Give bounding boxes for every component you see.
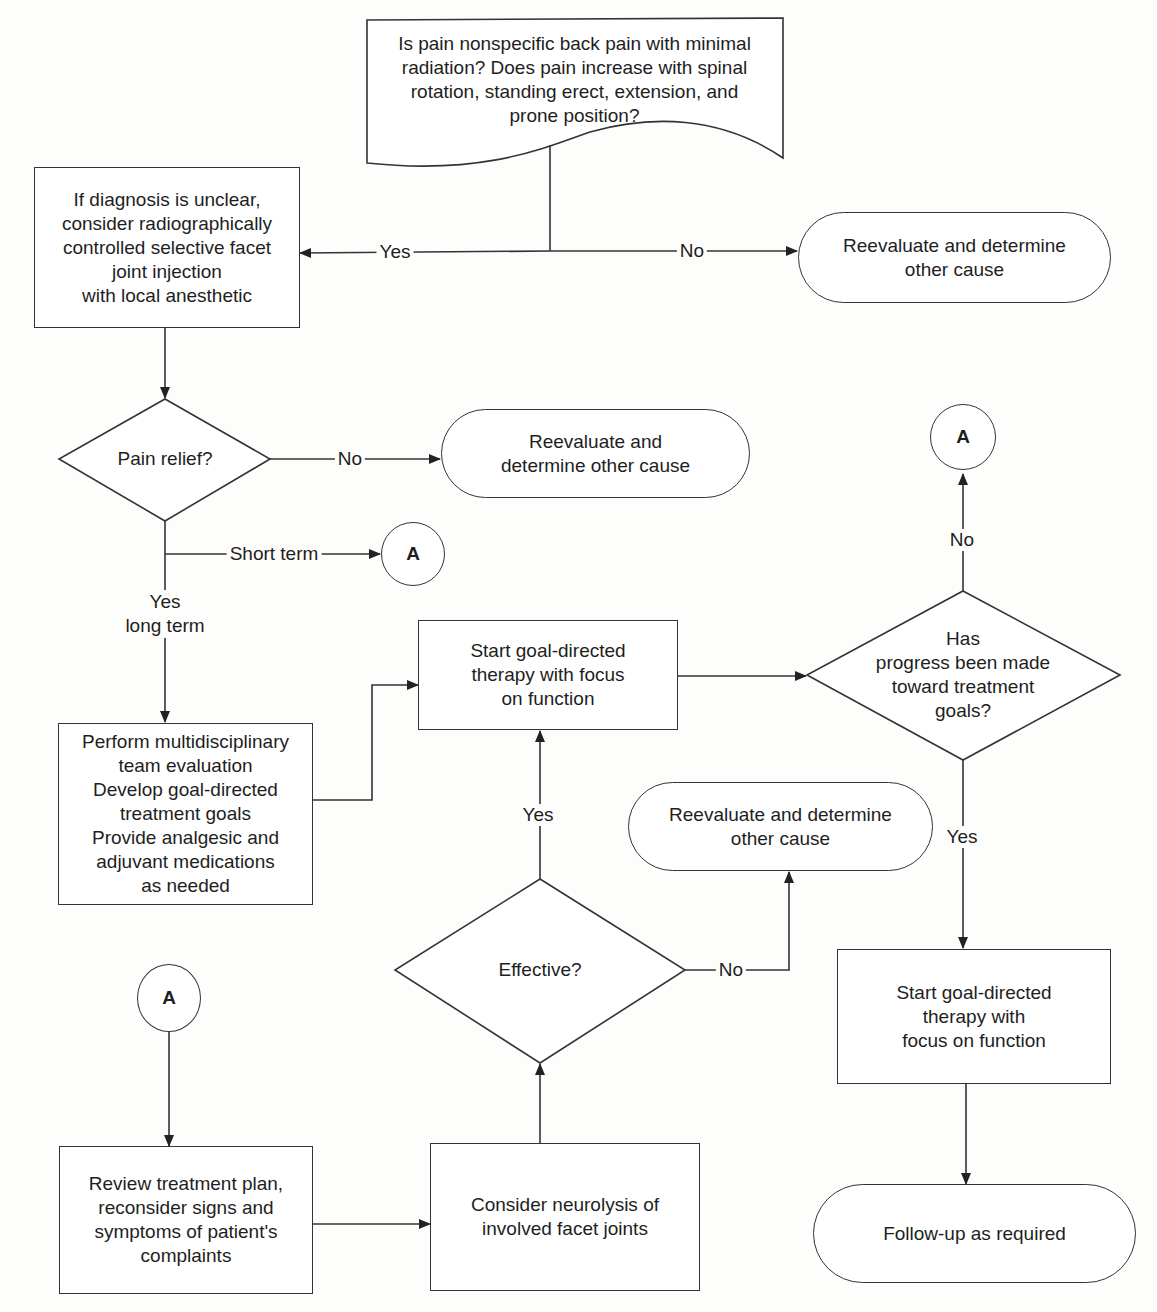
reevaluate-terminator-mid: Reevaluate and determine other cause	[441, 409, 750, 498]
box-line: treatment goals	[120, 802, 251, 826]
connector-label: A	[406, 542, 420, 566]
terminator-line: Reevaluate and determine	[843, 234, 1066, 258]
edge-label-start-yes: Yes	[377, 241, 414, 263]
goal-therapy-box-right: Start goal-directed therapy with focus o…	[837, 949, 1111, 1084]
neurolysis-box: Consider neurolysis of involved facet jo…	[430, 1143, 700, 1291]
terminator-line: Reevaluate and determine	[669, 803, 892, 827]
terminator-line: other cause	[905, 258, 1004, 282]
connector-a-top: A	[930, 404, 996, 470]
reevaluate-terminator-top: Reevaluate and determine other cause	[798, 212, 1111, 303]
edge-label-effective-no: No	[716, 959, 746, 981]
box-line: therapy with	[923, 1005, 1025, 1029]
edge-label-pain-no: No	[335, 448, 365, 470]
goal-therapy-box-center: Start goal-directed therapy with focus o…	[418, 620, 678, 730]
reevaluate-terminator-lower: Reevaluate and determine other cause	[628, 782, 933, 871]
decision-label: Effective?	[498, 958, 581, 982]
box-line: symptoms of patient's	[94, 1220, 277, 1244]
start-line: prone position?	[510, 104, 640, 128]
edge-label-yes-long-term: Yes long term	[125, 590, 204, 638]
connector-label: A	[162, 986, 176, 1010]
box-line: Perform multidisciplinary	[82, 730, 289, 754]
box-line: Consider neurolysis of	[471, 1193, 659, 1217]
edge-label-effective-yes: Yes	[520, 804, 557, 826]
pain-relief-decision: Pain relief?	[80, 445, 250, 473]
terminator-label: Follow-up as required	[883, 1222, 1066, 1246]
edge-label-line: long term	[125, 614, 204, 638]
effective-decision: Effective?	[455, 956, 625, 984]
decision-line: goals?	[935, 699, 991, 723]
box-line: adjuvant medications	[96, 850, 275, 874]
box-line: with local anesthetic	[82, 284, 252, 308]
start-line: radiation? Does pain increase with spina…	[402, 56, 747, 80]
box-line: Review treatment plan,	[89, 1172, 283, 1196]
box-line: on function	[502, 687, 595, 711]
terminator-line: determine other cause	[501, 454, 690, 478]
box-line: controlled selective facet	[63, 236, 271, 260]
box-line: Start goal-directed	[470, 639, 625, 663]
box-line: as needed	[141, 874, 230, 898]
decision-label: Pain relief?	[117, 447, 212, 471]
box-line: Develop goal-directed	[93, 778, 278, 802]
connector-a-short-term: A	[381, 522, 445, 586]
box-line: therapy with focus	[471, 663, 624, 687]
review-treatment-box: Review treatment plan, reconsider signs …	[59, 1146, 313, 1294]
edge-label-start-no: No	[677, 240, 707, 262]
edge-label-progress-yes: Yes	[944, 826, 981, 848]
box-line: consider radiographically	[62, 212, 272, 236]
progress-decision: Has progress been made toward treatment …	[860, 625, 1066, 725]
decision-line: Has	[946, 627, 980, 651]
connector-label: A	[956, 425, 970, 449]
start-line: Is pain nonspecific back pain with minim…	[398, 32, 751, 56]
multidisciplinary-box: Perform multidisciplinary team evaluatio…	[58, 723, 313, 905]
box-line: focus on function	[902, 1029, 1046, 1053]
connector-a-bottom: A	[137, 964, 201, 1032]
box-line: reconsider signs and	[98, 1196, 273, 1220]
box-line: joint injection	[112, 260, 222, 284]
terminator-line: Reevaluate and	[529, 430, 662, 454]
decision-line: progress been made	[876, 651, 1050, 675]
edge-label-progress-no: No	[947, 529, 977, 551]
edge-label-short-term: Short term	[227, 543, 322, 565]
box-line: If diagnosis is unclear,	[74, 188, 261, 212]
box-line: complaints	[141, 1244, 232, 1268]
facet-injection-box: If diagnosis is unclear, consider radiog…	[34, 167, 300, 328]
terminator-line: other cause	[731, 827, 830, 851]
box-line: involved facet joints	[482, 1217, 648, 1241]
box-line: team evaluation	[118, 754, 252, 778]
decision-line: toward treatment	[892, 675, 1035, 699]
followup-terminator: Follow-up as required	[813, 1184, 1136, 1283]
start-line: rotation, standing erect, extension, and	[411, 80, 738, 104]
start-question: Is pain nonspecific back pain with minim…	[372, 30, 777, 130]
edge-label-line: Yes	[125, 590, 204, 614]
box-line: Provide analgesic and	[92, 826, 279, 850]
box-line: Start goal-directed	[896, 981, 1051, 1005]
